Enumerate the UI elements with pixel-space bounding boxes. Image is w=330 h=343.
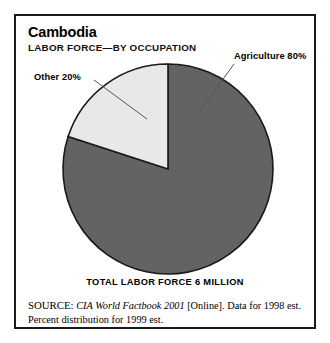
pie-label-agriculture: Agriculture 80% [234, 51, 306, 61]
source-line-two: Percent distribution for 1999 est. [28, 314, 163, 325]
figure-frame: Cambodia LABOR FORCE—BY OCCUPATION Other… [14, 14, 316, 329]
source-note: SOURCE: CIA World Factbook 2001 [Online]… [28, 299, 304, 326]
source-publication: CIA World Factbook 2001 [76, 300, 184, 311]
pie-label-other: Other 20% [34, 72, 81, 82]
chart-total-caption: TOTAL LABOR FORCE 6 MILLION [16, 277, 314, 287]
source-detail: [Online]. Data for 1998 est. [185, 300, 301, 311]
source-label: SOURCE: [28, 299, 74, 311]
